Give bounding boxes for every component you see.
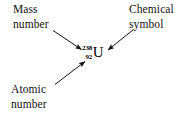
label-mass-number: Mass number <box>13 2 49 31</box>
label-chemical-symbol: Chemical symbol <box>129 2 174 31</box>
label-mass-number-line2: number <box>13 17 49 32</box>
label-atomic-number-line1: Atomic <box>11 82 47 97</box>
nuclide-mass-number: 238 <box>82 44 92 53</box>
nuclide-element-symbol: U <box>93 45 104 60</box>
label-chemical-symbol-line2: symbol <box>129 17 174 32</box>
arrow-atomic-number <box>55 62 85 85</box>
arrow-chemical-symbol <box>108 30 134 51</box>
nuclide-atomic-number: 92 <box>85 53 92 62</box>
nuclide-notation-diagram: Mass number Chemical symbol Atomic numbe… <box>0 0 189 117</box>
nuclide-indices: 238 92 <box>82 44 92 61</box>
label-chemical-symbol-line1: Chemical <box>129 2 174 17</box>
label-atomic-number: Atomic number <box>11 82 47 111</box>
label-atomic-number-line2: number <box>11 97 47 112</box>
label-mass-number-line1: Mass <box>13 2 49 17</box>
arrow-mass-number <box>53 31 82 50</box>
nuclide-symbol: 238 92 U <box>82 44 104 61</box>
